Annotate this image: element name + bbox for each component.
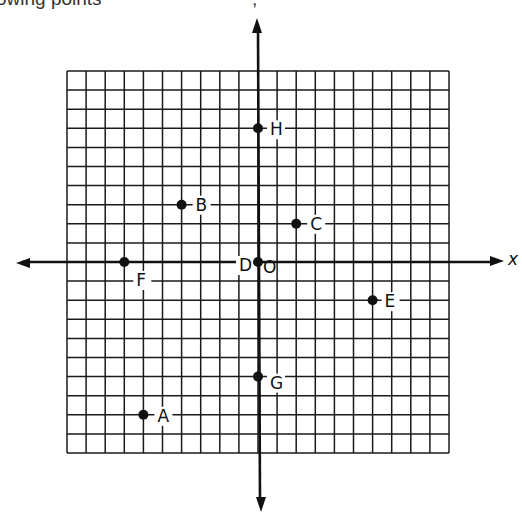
x-axis-label: x (507, 249, 519, 269)
point-b (177, 200, 187, 210)
origin-label: O (263, 257, 276, 277)
point-g (253, 372, 263, 382)
point-label-c: C (310, 214, 322, 234)
point-label-b: B (196, 195, 208, 215)
point-label-e: E (385, 291, 396, 311)
point-label-h: H (270, 119, 283, 139)
y-axis-bottom-arrow (256, 497, 266, 512)
y-axis-top-arrow (252, 18, 262, 33)
point-c (291, 219, 301, 229)
point-label-a: A (157, 406, 169, 426)
point-label-d: D (239, 255, 252, 275)
point-f (119, 257, 129, 267)
point-d (253, 257, 263, 267)
point-e (368, 295, 378, 305)
x-axis-left-arrow (16, 258, 30, 268)
point-a (138, 410, 148, 420)
point-label-g: G (270, 373, 283, 393)
x-axis-right-arrow (490, 256, 504, 266)
axes: x O (16, 18, 519, 512)
point-label-f: F (136, 270, 146, 290)
point-h (253, 123, 263, 133)
coordinate-plane: x O ABCDEFGH (0, 0, 522, 518)
